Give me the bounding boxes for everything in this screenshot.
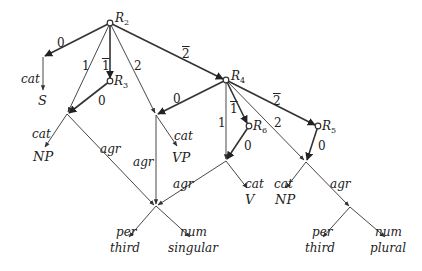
leaf-np-left: NP: [33, 150, 53, 163]
r2-letter: R: [115, 11, 124, 25]
node-r6: [246, 123, 252, 129]
edge-label-num-right: num: [375, 226, 402, 238]
edge-label-agr-right: agr: [330, 178, 351, 190]
r4-letter: R: [231, 69, 240, 83]
edge-label-cat-np-left: cat: [32, 128, 51, 140]
leaf-v: V: [245, 193, 254, 206]
edge-label-r2-2: 2: [134, 60, 142, 72]
edge-r4-0: [158, 80, 226, 114]
edge-label-cat-np-right: cat: [274, 178, 293, 190]
edge-label-r2-2bar: 2: [182, 48, 190, 60]
leaf-third-right: third: [305, 242, 335, 254]
edge-label-per-left: per: [116, 226, 137, 238]
edge-label-r4-1: 1: [218, 117, 226, 129]
edge-label-agr-mid: agr: [133, 156, 154, 168]
edge-label-r5-0: 0: [318, 140, 326, 152]
leaf-third-left: third: [110, 242, 140, 254]
edge-cat-v: [226, 161, 247, 188]
edge-label-r2-1: 1: [82, 60, 90, 72]
r4-sub: 4: [240, 76, 245, 85]
edge-label-r4-2: 2: [274, 117, 282, 129]
edge-r2-0: [45, 23, 110, 56]
leaf-plural: plural: [370, 242, 406, 254]
r3-letter: R: [114, 74, 123, 88]
label-r5: R5: [322, 120, 336, 135]
node-r4: [223, 77, 229, 83]
r5-letter: R: [322, 119, 331, 133]
node-r3: [107, 78, 113, 84]
edge-label-r2-0: 0: [57, 37, 65, 49]
edge-label-r2-1bar: 1: [102, 60, 110, 72]
leaf-s: S: [38, 94, 47, 107]
edge-label-r4-1bar: 1: [230, 103, 238, 115]
node-r2: [107, 20, 113, 26]
leaf-singular: singular: [168, 242, 218, 254]
edge-label-agr-v: agr: [173, 178, 194, 190]
leaf-vp: VP: [172, 151, 190, 164]
node-r5: [315, 123, 321, 129]
r2-sub: 2: [124, 18, 129, 27]
edge-r4-2bar: [226, 80, 315, 125]
edge-r5-0: [307, 126, 318, 160]
edge-label-cat-vp: cat: [174, 130, 193, 142]
edge-label-r3-0: 0: [98, 95, 106, 107]
edge-label-num-left: num: [180, 226, 207, 238]
label-r2: R2: [115, 12, 129, 27]
label-r4: R4: [231, 70, 245, 85]
edge-label-agr-left: agr: [100, 143, 121, 155]
label-r6: R6: [253, 120, 267, 135]
edge-r2-2bar: [110, 23, 223, 79]
r5-sub: 5: [331, 126, 336, 135]
r6-sub: 6: [262, 126, 267, 135]
edge-label-r4-0: 0: [173, 93, 181, 105]
edge-r2-2: [110, 23, 155, 113]
edge-label-r6-0: 0: [244, 140, 252, 152]
edge-label-cat-v: cat: [245, 178, 264, 190]
r6-letter: R: [253, 119, 262, 133]
edge-label-cat-s: cat: [21, 73, 40, 85]
r3-sub: 3: [123, 81, 128, 90]
edge-label-r4-2bar: 2: [273, 95, 281, 107]
leaf-np-right: NP: [275, 193, 295, 206]
edge-label-per-right: per: [312, 226, 333, 238]
label-r3: R3: [114, 75, 128, 90]
